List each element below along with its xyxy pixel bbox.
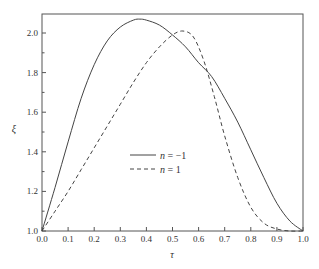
x-tick-label: 0.2 — [89, 234, 100, 244]
series-n-minus-1-solid — [42, 19, 303, 231]
legend-label: n = −1 — [160, 150, 186, 161]
x-tick-label: 0.9 — [271, 234, 283, 244]
plot-frame — [42, 14, 303, 231]
y-tick-label: 1.8 — [27, 68, 39, 78]
plot-border — [42, 14, 303, 231]
x-tick-label: 0.6 — [193, 234, 205, 244]
x-axis-label: τ — [170, 249, 174, 260]
x-tick-label: 0.0 — [36, 234, 48, 244]
y-tick-label: 1.2 — [27, 186, 38, 196]
y-tick-label: 2.0 — [27, 28, 39, 38]
y-tick-label: 1.4 — [27, 147, 39, 157]
x-tick-label: 0.5 — [167, 234, 179, 244]
series-n-1-dashed — [42, 31, 303, 231]
legend: n = −1n = 1 — [130, 150, 186, 175]
x-tick-label: 0.3 — [115, 234, 127, 244]
chart: 0.00.10.20.30.40.50.60.70.80.91.0 1.01.2… — [0, 0, 319, 269]
plot-series — [42, 19, 303, 231]
x-tick-label: 0.1 — [62, 234, 73, 244]
x-axis-ticks: 0.00.10.20.30.40.50.60.70.80.91.0 — [36, 227, 309, 244]
x-tick-label: 0.7 — [219, 234, 231, 244]
x-tick-label: 0.8 — [245, 234, 257, 244]
x-tick-label: 0.4 — [141, 234, 153, 244]
y-axis-ticks: 1.01.21.41.61.82.0 — [27, 28, 46, 236]
y-axis-label: ξ — [12, 123, 17, 135]
y-tick-label: 1.0 — [27, 226, 39, 236]
y-tick-label: 1.6 — [27, 107, 39, 117]
legend-label: n = 1 — [160, 164, 181, 175]
x-tick-label: 1.0 — [297, 234, 309, 244]
